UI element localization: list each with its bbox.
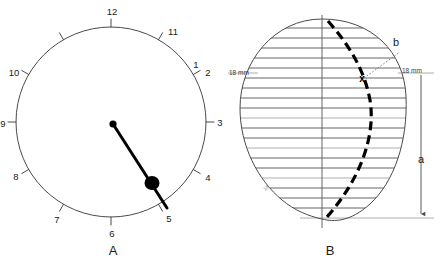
dial-tick-8 — [22, 71, 29, 75]
dial-number-3: 3 — [217, 117, 222, 128]
dial-number-5: 5 — [166, 213, 171, 224]
panel-a: 12 11 1 2 3 4 5 6 7 8 9 10 A — [0, 6, 222, 258]
dial-number-4: 4 — [205, 172, 210, 183]
label-18mm-left: 18 mm — [229, 69, 249, 76]
label-faint-inner: 18 — [262, 183, 271, 191]
dial-number-2: 2 — [205, 67, 210, 78]
dial-tick-2 — [193, 170, 200, 174]
dial-number-9: 9 — [0, 118, 5, 129]
pointer-shaft — [113, 124, 167, 208]
dial-tick-11 — [159, 33, 163, 40]
dial-tick-1 — [193, 71, 200, 75]
hatch-fill — [232, 28, 414, 208]
label-b: b — [393, 36, 399, 48]
dial-tick-5 — [60, 204, 64, 211]
panel-a-caption: A — [109, 243, 118, 258]
pointer-marker-bead — [145, 176, 160, 190]
figure-container: 12 11 1 2 3 4 5 6 7 8 9 10 A — [0, 0, 442, 264]
dial-number-11: 11 — [168, 26, 178, 37]
pointer-pivot-dot — [109, 120, 116, 127]
intersection-x-marker: x — [359, 73, 365, 84]
label-a: a — [418, 153, 425, 165]
dial-number-8: 8 — [13, 171, 18, 182]
dial-tick-10 — [60, 33, 64, 40]
dial-pointer — [109, 120, 167, 208]
radius-b-dotted-line — [364, 52, 400, 78]
panel-b-caption: B — [326, 243, 335, 258]
dial-number-1: 1 — [193, 59, 198, 70]
dial-number-12: 12 — [107, 6, 118, 17]
dial-tick-4 — [159, 204, 163, 211]
dial-number-6: 6 — [109, 228, 114, 239]
dial-number-10: 10 — [9, 67, 20, 78]
dial-number-7: 7 — [54, 214, 59, 225]
dial-tick-7 — [22, 170, 29, 174]
figure-svg: 12 11 1 2 3 4 5 6 7 8 9 10 A — [0, 0, 442, 264]
label-18mm-right: 18 mm — [402, 67, 422, 74]
panel-b: x 18 mm 18 mm b a 18 B — [228, 15, 434, 258]
